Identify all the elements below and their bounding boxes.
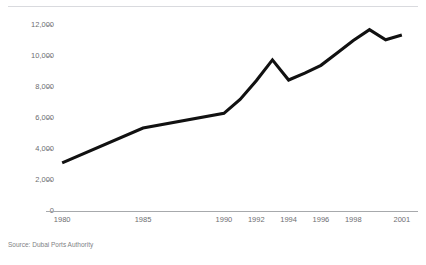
source-note: Source: Dubai Ports Authority [8,240,93,249]
data-series-line [0,0,426,265]
line-chart-figure: Dubai container traffic 02,0004,0006,000… [0,0,426,265]
axis-baseline [46,211,418,212]
plot-area: 02,0004,0006,0008,00010,00012,000 198019… [0,0,426,265]
